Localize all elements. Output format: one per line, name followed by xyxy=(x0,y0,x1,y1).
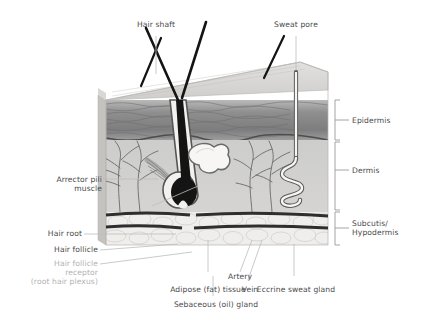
label-artery: Artery xyxy=(218,272,262,282)
skin-block xyxy=(98,62,333,245)
hair-shaft-left xyxy=(141,38,161,86)
label-hair-follicle: Hair follicle xyxy=(0,245,98,255)
label-subcutis-line2: Hypodermis xyxy=(352,228,399,238)
bracket-dermis xyxy=(335,142,340,210)
bracket-subcutis xyxy=(335,212,340,245)
label-epidermis: Epidermis xyxy=(352,116,391,126)
label-sweat-pore: Sweat pore xyxy=(248,20,344,30)
label-hair-root: Hair root xyxy=(0,229,82,239)
label-hair-follicle-receptor-line3: (root hair plexus) xyxy=(0,277,98,287)
label-dermis: Dermis xyxy=(352,166,380,176)
label-hair-shaft: Hair shaft xyxy=(108,20,204,30)
skin-anatomy-diagram: Hair shaft Sweat pore Epidermis Dermis S… xyxy=(0,0,421,329)
subcutis-layer xyxy=(106,212,328,245)
label-arrector-pili-line2: muscle xyxy=(10,184,102,194)
label-eccrine-sweat-gland: Eccrine sweat gland xyxy=(240,285,352,295)
block-left-face xyxy=(98,95,106,245)
layer-brackets xyxy=(335,100,349,245)
label-sebaceous-gland: Sebaceous (oil) gland xyxy=(142,300,290,310)
leader-receptor xyxy=(100,252,192,264)
